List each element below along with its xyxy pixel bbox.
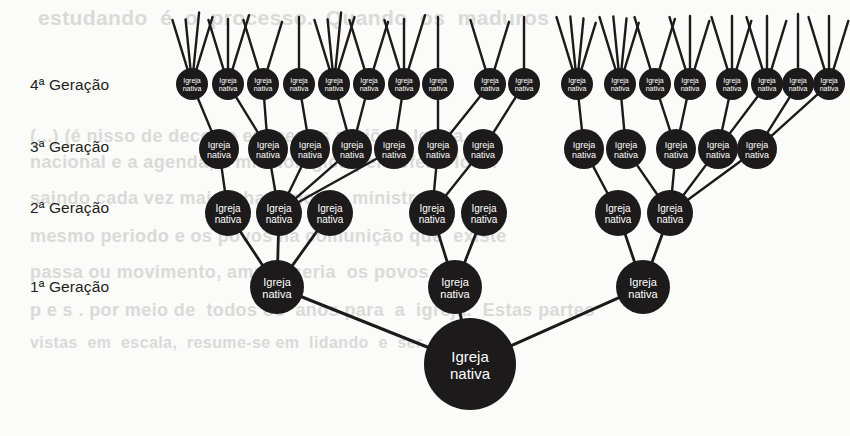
node-label-line2: nativa [481, 85, 500, 92]
node-label-line1: Igreja [758, 77, 776, 85]
node-label-line1: Igreja [441, 276, 469, 288]
church-node-gen3[interactable]: Igrejanativa [332, 129, 372, 169]
sprout-line [208, 20, 224, 71]
church-node-gen4[interactable]: Igrejanativa [422, 68, 454, 100]
church-node-gen2[interactable]: Igrejanativa [595, 190, 641, 236]
node-label-line1: Igreja [789, 77, 807, 85]
church-node-gen4[interactable]: Igrejanativa [247, 68, 279, 100]
node-label-line1: Igreja [299, 140, 322, 150]
node-label-line1: Igreja [515, 77, 533, 85]
church-node-gen1[interactable]: Igrejanativa [428, 260, 482, 314]
node-label-line2: nativa [254, 85, 273, 92]
sprout-line [470, 20, 486, 71]
church-node-gen3[interactable]: Igrejanativa [199, 129, 239, 169]
node-label-line1: Igreja [471, 203, 496, 214]
church-node-gen4[interactable]: Igrejanativa [388, 68, 420, 100]
node-label-line2: nativa [419, 214, 446, 225]
node-label-line2: nativa [298, 150, 322, 160]
church-node-gen2[interactable]: Igrejanativa [205, 190, 251, 236]
church-node-gen4[interactable]: Igrejanativa [604, 68, 636, 100]
node-label-line1: Igreja [290, 77, 308, 85]
node-label-line1: Igreja [723, 77, 741, 85]
church-node-gen3[interactable]: Igrejanativa [248, 129, 288, 169]
tree-edge [438, 233, 447, 263]
church-node-gen3[interactable]: Igrejanativa [290, 129, 330, 169]
tree-edge [235, 96, 258, 134]
church-node-gen1[interactable]: Igrejanativa [250, 260, 304, 314]
tree-edge [449, 95, 481, 135]
sprout-layer [172, 12, 848, 70]
node-label-line1: Igreja [568, 77, 586, 85]
figure-canvas: estudando é o processo. Quando os maduro… [0, 0, 850, 436]
tree-edge [625, 233, 635, 263]
church-node-gen4[interactable]: Igrejanativa [639, 68, 671, 100]
church-node-gen3[interactable]: Igrejanativa [418, 129, 458, 169]
node-label-line2: nativa [395, 85, 414, 92]
sprout-line [809, 17, 825, 71]
node-label-line1: Igreja [472, 140, 495, 150]
church-node-gen4[interactable]: Igrejanativa [283, 68, 315, 100]
church-node-gen4[interactable]: Igrejanativa [751, 68, 783, 100]
church-node-gen3[interactable]: Igrejanativa [737, 129, 777, 169]
node-label-line2: nativa [789, 85, 808, 92]
church-node-gen4[interactable]: Igrejanativa [813, 68, 845, 100]
sprout-line [635, 17, 651, 71]
sprout-line [232, 15, 249, 70]
church-node-gen3[interactable]: Igrejanativa [656, 129, 696, 169]
node-label-line2: nativa [382, 150, 406, 160]
church-node-gen3[interactable]: Igrejanativa [564, 129, 604, 169]
sprout-line [494, 22, 509, 71]
node-label-line2: nativa [340, 150, 364, 160]
node-label-line2: nativa [664, 150, 688, 160]
church-node-gen4[interactable]: Igrejanativa [561, 68, 593, 100]
tree-edge [680, 98, 687, 132]
church-node-gen2[interactable]: Igrejanativa [647, 190, 693, 236]
node-label-line2: nativa [572, 150, 596, 160]
church-node-gen2[interactable]: Igrejanativa [256, 190, 302, 236]
node-label-line2: nativa [758, 85, 777, 92]
church-node-gen3[interactable]: Igrejanativa [606, 129, 646, 169]
node-layer: IgrejanativaIgrejanativaIgrejanativaIgre… [176, 68, 845, 410]
tree-edge [729, 95, 759, 134]
node-label-line1: Igreja [266, 203, 291, 214]
tree-edge [197, 97, 212, 132]
church-node-gen2[interactable]: Igrejanativa [461, 190, 507, 236]
node-label-line1: Igreja [383, 140, 406, 150]
church-node-gen4[interactable]: Igrejanativa [674, 68, 706, 100]
node-label-line2: nativa [706, 150, 730, 160]
node-label-line2: nativa [325, 85, 344, 92]
tree-edge [722, 98, 729, 132]
church-node-gen4[interactable]: Igrejanativa [782, 68, 814, 100]
church-node-root[interactable]: Igrejanativa [424, 318, 516, 410]
node-label-line2: nativa [266, 214, 293, 225]
node-label-line1: Igreja [707, 140, 730, 150]
tree-edge [672, 167, 674, 192]
tree-edge [292, 230, 318, 267]
node-label-line1: Igreja [429, 77, 447, 85]
church-node-gen4[interactable]: Igrejanativa [318, 68, 350, 100]
node-label-line1: Igreja [263, 276, 291, 288]
church-node-gen3[interactable]: Igrejanativa [463, 129, 503, 169]
tree-edge [434, 167, 436, 192]
node-label-line2: nativa [723, 85, 742, 92]
church-node-gen4[interactable]: Igrejanativa [353, 68, 385, 100]
church-node-gen3[interactable]: Igrejanativa [698, 129, 738, 169]
church-node-gen2[interactable]: Igrejanativa [409, 190, 455, 236]
tree-edge [240, 231, 264, 267]
church-node-gen4[interactable]: Igrejanativa [212, 68, 244, 100]
tree-edge [445, 163, 472, 197]
church-node-gen2[interactable]: Igrejanativa [307, 190, 353, 236]
church-node-gen3[interactable]: Igrejanativa [374, 129, 414, 169]
church-node-gen4[interactable]: Igrejanativa [176, 68, 208, 100]
node-label-line2: nativa [681, 85, 700, 92]
church-node-gen4[interactable]: Igrejanativa [474, 68, 506, 100]
sprout-line [833, 21, 848, 71]
node-label-line1: Igreja [629, 276, 657, 288]
sprout-line [384, 20, 400, 71]
church-node-gen4[interactable]: Igrejanativa [508, 68, 540, 100]
church-node-gen4[interactable]: Igrejanativa [716, 68, 748, 100]
church-node-gen1[interactable]: Igrejanativa [616, 260, 670, 314]
tree-edge [300, 296, 429, 347]
sprout-line [349, 20, 365, 71]
node-label-line1: Igreja [325, 77, 343, 85]
